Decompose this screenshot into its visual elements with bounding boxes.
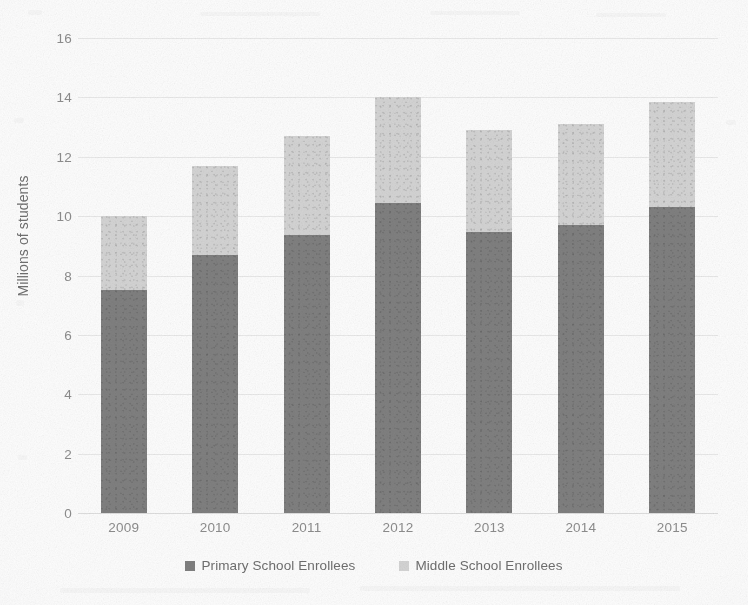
bar-segment[interactable] — [558, 124, 604, 225]
bar-segment[interactable] — [375, 203, 421, 513]
scan-artifact — [60, 588, 310, 593]
bar-group[interactable] — [466, 38, 512, 513]
y-axis-tick-label: 10 — [26, 209, 72, 224]
legend-square-marker-icon — [399, 561, 409, 571]
bar-segment[interactable] — [284, 235, 330, 513]
bar-segment[interactable] — [649, 102, 695, 207]
bar-group[interactable] — [192, 38, 238, 513]
bar-segment[interactable] — [375, 97, 421, 202]
chart-legend: Primary School EnrolleesMiddle School En… — [0, 558, 748, 573]
legend-square-marker-icon — [185, 561, 195, 571]
x-axis-tick-label: 2011 — [284, 520, 330, 542]
x-axis-tick-label: 2014 — [558, 520, 604, 542]
scan-artifact — [596, 13, 666, 17]
y-axis-tick-label: 14 — [26, 90, 72, 105]
x-axis-tick-label: 2009 — [101, 520, 147, 542]
chart-figure: 1614121086420 Millions of students 20092… — [0, 0, 748, 605]
scan-artifact — [726, 120, 736, 125]
bar-segment[interactable] — [558, 225, 604, 513]
x-axis-tick-label: 2015 — [649, 520, 695, 542]
y-axis-tick-label: 16 — [26, 31, 72, 46]
bar-group[interactable] — [284, 38, 330, 513]
y-axis-tick-label: 12 — [26, 149, 72, 164]
bar-group[interactable] — [558, 38, 604, 513]
plot-area — [78, 38, 718, 513]
bar-series-container — [78, 38, 718, 513]
legend-label: Primary School Enrollees — [201, 558, 355, 573]
scan-artifact — [28, 10, 42, 15]
bar-segment[interactable] — [466, 232, 512, 513]
x-axis-tick-label: 2010 — [192, 520, 238, 542]
bar-group[interactable] — [101, 38, 147, 513]
bar-group[interactable] — [649, 38, 695, 513]
scan-artifact — [200, 12, 320, 16]
bar-segment[interactable] — [649, 207, 695, 513]
x-axis-labels: 2009201020112012201320142015 — [78, 520, 718, 542]
scan-artifact — [360, 586, 680, 591]
y-axis-tick-label: 6 — [26, 327, 72, 342]
scan-artifact — [430, 11, 520, 15]
y-axis-tick-label: 2 — [26, 446, 72, 461]
bar-segment[interactable] — [466, 130, 512, 232]
legend-item[interactable]: Middle School Enrollees — [399, 558, 562, 573]
y-axis-title: Millions of students — [15, 121, 31, 351]
x-axis-tick-label: 2012 — [375, 520, 421, 542]
bar-segment[interactable] — [192, 255, 238, 513]
legend-label: Middle School Enrollees — [415, 558, 562, 573]
x-axis-tick-label: 2013 — [466, 520, 512, 542]
y-axis-tick-label: 8 — [26, 268, 72, 283]
bar-segment[interactable] — [101, 290, 147, 513]
gridline — [78, 513, 718, 514]
bar-segment[interactable] — [101, 216, 147, 290]
legend-item[interactable]: Primary School Enrollees — [185, 558, 355, 573]
y-axis-tick-label: 4 — [26, 387, 72, 402]
bar-segment[interactable] — [192, 166, 238, 255]
bar-segment[interactable] — [284, 136, 330, 235]
bar-group[interactable] — [375, 38, 421, 513]
y-axis-tick-label: 0 — [26, 506, 72, 521]
